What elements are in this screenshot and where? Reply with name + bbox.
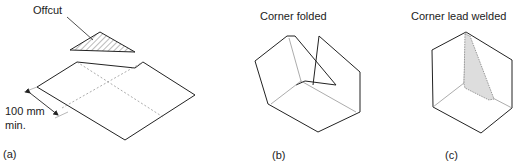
panel-c-drawing [432, 32, 512, 133]
fold-line-1 [77, 62, 163, 117]
sheet-outline [37, 62, 195, 140]
panel-a-label: (a) [3, 148, 16, 160]
dimension-ext-2 [55, 112, 68, 118]
lead-weld-seam [464, 34, 494, 100]
panel-c-title: Corner lead welded [411, 10, 506, 22]
offcut-triangle [70, 32, 135, 52]
figure-drawing [0, 0, 514, 168]
offcut-label: Offcut [33, 4, 62, 16]
panel-b-title: Corner folded [260, 10, 327, 22]
fold-edge-right [301, 81, 356, 112]
fold-line-2 [62, 62, 143, 108]
corner-edge-left [433, 83, 464, 107]
panel-c-label: (c) [445, 149, 458, 161]
panel-a-drawing [24, 17, 195, 140]
dimension-qualifier-label: min. [5, 119, 26, 131]
offcut-leader-line [67, 17, 93, 40]
dimension-ext-1 [24, 87, 37, 92]
panel-b-drawing [255, 36, 360, 132]
dimension-value-label: 100 mm [5, 105, 45, 117]
fold-edge-left [271, 81, 301, 104]
fold-edge-vertical [289, 38, 301, 81]
panel-b-label: (b) [272, 149, 285, 161]
